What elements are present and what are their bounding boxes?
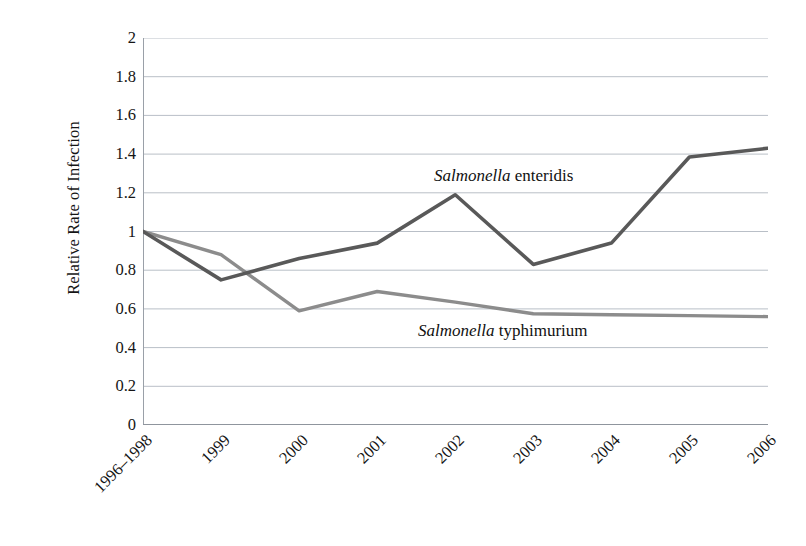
series-label-genus: Salmonella bbox=[418, 321, 495, 340]
series-label-salmonella-enteridis: Salmonella enteridis bbox=[434, 167, 573, 184]
x-axis-tick-labels: 1996–1998 1999 2000 2001 2002 2003 2004 … bbox=[0, 0, 806, 546]
series-label-species: enteridis bbox=[511, 166, 574, 185]
series-label-genus: Salmonella bbox=[434, 166, 511, 185]
series-label-species: typhimurium bbox=[495, 321, 588, 340]
chart-figure: Relative Rate of Infection 2 1.8 1.6 1.4… bbox=[0, 0, 806, 546]
series-label-salmonella-typhimurium: Salmonella typhimurium bbox=[418, 322, 588, 339]
